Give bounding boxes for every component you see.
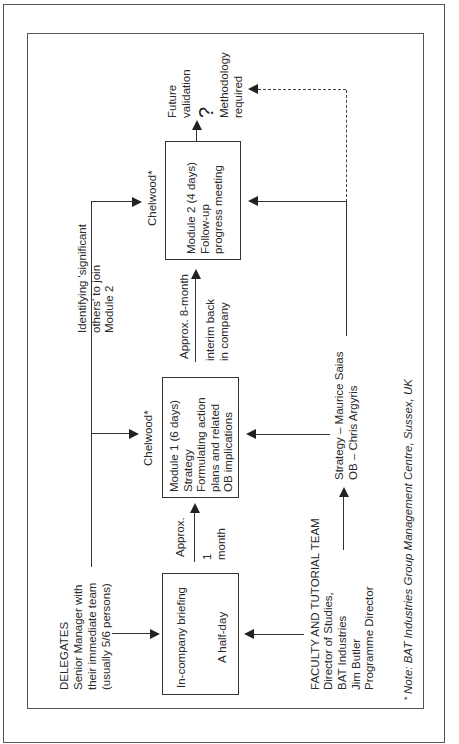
spine-to-module1-line bbox=[91, 433, 131, 434]
arrowhead-left-icon bbox=[248, 84, 258, 94]
arrowhead-up-icon bbox=[192, 120, 202, 130]
module2-line1: Module 2 (4 days) bbox=[185, 162, 199, 254]
module1-line2: Strategy bbox=[182, 449, 196, 492]
delegates-heading: DELEGATES bbox=[58, 622, 72, 690]
arrowhead-up-icon bbox=[339, 487, 349, 497]
note-text: Note: BAT Industries Group Management Ce… bbox=[402, 379, 416, 694]
feedback-dashed-horizontal bbox=[258, 89, 346, 90]
methodology-label: Methodology required bbox=[218, 52, 245, 118]
gap1-line bbox=[194, 512, 195, 562]
arrowhead-up-icon bbox=[191, 269, 201, 279]
faculty-line3: Jim Butler bbox=[350, 639, 364, 690]
module2-line3: progress meeting bbox=[212, 165, 226, 254]
gap1-label-bottom: 1 month bbox=[201, 528, 228, 560]
speakers-to-module1-line bbox=[256, 434, 330, 435]
speakers-label: Strategy – Maurice Saias OB – Chris Argy… bbox=[333, 352, 360, 480]
arrowhead-left-icon bbox=[246, 429, 256, 439]
faculty-heading: FACULTY AND TUTORIAL TEAM bbox=[309, 518, 323, 690]
speakers-spine-line bbox=[346, 201, 347, 336]
gap2-label-bottom: interim back in company bbox=[204, 299, 231, 361]
briefing-duration: A half-day bbox=[216, 612, 230, 663]
question-mark-icon: ? bbox=[195, 107, 218, 118]
spine-to-module2-line bbox=[91, 201, 133, 202]
spine-to-module2-right-line bbox=[258, 201, 347, 202]
module1-venue: Chelwood* bbox=[142, 410, 156, 466]
delegates-to-briefing-line bbox=[112, 633, 152, 634]
arrowhead-right-icon bbox=[129, 429, 139, 439]
module1-line1: Module 1 (6 days) bbox=[168, 400, 182, 492]
note-asterisk: * bbox=[401, 696, 415, 700]
module2-line2: Follow-up bbox=[199, 204, 213, 254]
significant-others-label: Identifying 'significant others' to join… bbox=[76, 224, 117, 333]
arrowhead-right-icon bbox=[132, 197, 142, 207]
faculty-line1: Director of Studies, bbox=[322, 592, 336, 690]
faculty-to-speakers-line bbox=[343, 496, 344, 550]
module1-line4: plans and related bbox=[209, 404, 223, 492]
faculty-line2: BAT Industries bbox=[336, 616, 350, 690]
delegates-line3: (usually 5/6 persons) bbox=[100, 583, 114, 690]
arrowhead-left-icon bbox=[248, 196, 258, 206]
module1-line5: OB implications bbox=[222, 412, 236, 492]
gap1-label-top: Approx. bbox=[174, 517, 188, 557]
gap2-label-top: Approx. 8-month bbox=[178, 274, 192, 359]
arrowhead-left-icon bbox=[244, 629, 254, 639]
delegates-line1: Senior Manager with bbox=[72, 585, 86, 690]
feedback-dashed-vertical bbox=[346, 90, 347, 202]
faculty-to-briefing-line bbox=[254, 634, 304, 635]
faculty-line4: Programme Director bbox=[363, 586, 377, 690]
delegates-line2: their immediate team bbox=[86, 583, 100, 690]
module1-line3: Formulating action bbox=[195, 397, 209, 492]
briefing-title: In-company briefing bbox=[175, 587, 189, 688]
future-validation-label: Future validation bbox=[166, 69, 193, 118]
module2-venue: Chelwood* bbox=[146, 170, 160, 226]
arrowhead-right-icon bbox=[150, 629, 160, 639]
gap2-line bbox=[195, 278, 196, 362]
arrowhead-up-icon bbox=[190, 503, 200, 513]
